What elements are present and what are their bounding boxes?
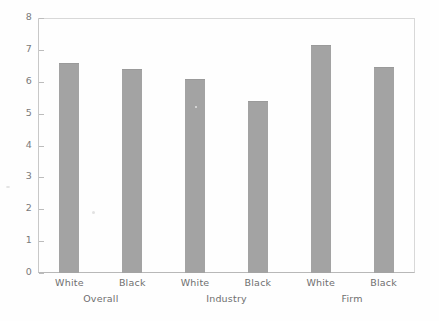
bar xyxy=(248,101,268,273)
x-axis-group-label: Industry xyxy=(182,293,272,304)
x-axis-label: Black xyxy=(102,277,162,288)
bar xyxy=(374,67,394,273)
bars-layer xyxy=(0,0,439,321)
bar-chart-figure: 012345678 WhiteBlackWhiteBlackWhiteBlack… xyxy=(0,0,439,321)
x-axis-label: White xyxy=(39,277,99,288)
x-axis-label: Black xyxy=(354,277,414,288)
x-axis-label: White xyxy=(291,277,351,288)
bar xyxy=(59,63,79,273)
bar xyxy=(311,45,331,273)
x-axis-group-label: Firm xyxy=(307,293,397,304)
x-axis-group-label: Overall xyxy=(56,293,146,304)
scan-speck xyxy=(6,186,10,188)
x-axis-label: Black xyxy=(228,277,288,288)
scan-speck xyxy=(195,106,197,108)
x-axis-label: White xyxy=(165,277,225,288)
bar xyxy=(122,69,142,273)
scan-speck xyxy=(92,211,95,214)
